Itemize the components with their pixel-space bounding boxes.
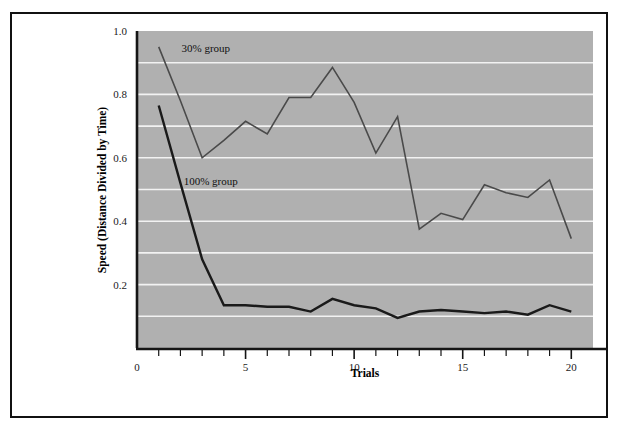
y-tick-label: 0.2 [113,279,127,291]
y-tick-label: 0.4 [113,215,127,227]
y-tick-label: 0.8 [113,88,127,100]
y-tick-label: 0.6 [113,152,127,164]
x-axis-title: Trials [351,367,380,379]
y-tick-label: 1.0 [113,25,127,37]
speed-vs-trials-line-chart: 05101520 0.20.40.60.81.0 30% group100% g… [0,0,620,436]
series-label-30-percent-group: 30% group [182,42,231,54]
y-axis-tick-labels: 0.20.40.60.81.0 [113,25,127,291]
x-tick-label: 15 [457,361,469,373]
x-tick-label: 5 [243,361,249,373]
x-tick-label: 0 [134,361,140,373]
series-label-100-percent-group: 100% group [184,175,239,187]
y-axis-title: Speed (Distance Divided by Time) [96,107,109,274]
x-tick-label: 20 [566,361,578,373]
x-axis-ticks [159,350,572,359]
